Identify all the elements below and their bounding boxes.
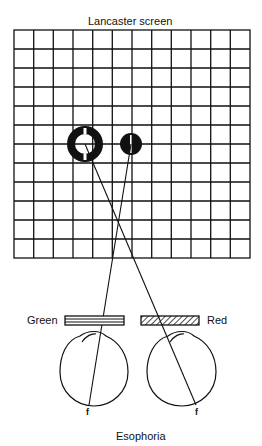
lancaster-diagram [0,0,262,446]
left-eye-line [89,144,131,405]
red-label: Red [207,314,227,326]
green-label: Green [27,314,58,326]
red-filter [141,316,199,325]
caption: Esophoria [116,430,166,442]
green-filter [65,316,124,325]
right-eye-line [85,144,196,405]
right-eye [147,332,216,407]
fovea-left: f [86,407,89,417]
fovea-right: f [195,407,198,417]
left-eye [60,332,128,407]
